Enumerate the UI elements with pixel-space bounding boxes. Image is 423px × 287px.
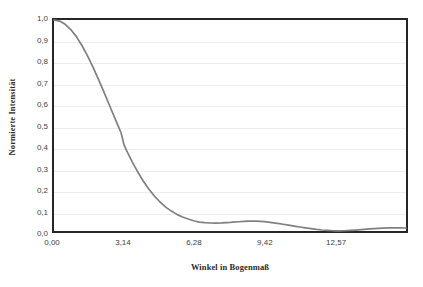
y-axis-tick-label: 0,6 xyxy=(37,100,48,109)
y-axis-tick-label: 0,2 xyxy=(37,186,48,195)
diffraction-intensity-chart: Normierte Intensität 0,00,10,20,30,40,50… xyxy=(0,0,423,287)
y-axis-tick-label: 0,9 xyxy=(37,35,48,44)
x-axis-title: Winkel in Bogenmaß xyxy=(52,262,408,272)
y-axis-tick-label: 0,0 xyxy=(37,229,48,238)
y-axis-title: Normierte Intensität xyxy=(0,0,24,234)
x-axis-tick-labels: 0,003,146,289,4212,57 xyxy=(52,238,408,252)
x-axis-tick-label: 12,57 xyxy=(326,238,346,247)
y-axis-tick-labels: 0,00,10,20,30,40,50,60,70,80,91,0 xyxy=(24,18,50,233)
y-axis-tick-label: 0,5 xyxy=(37,121,48,130)
y-axis-tick-label: 0,1 xyxy=(37,207,48,216)
y-axis-tick-label: 1,0 xyxy=(37,14,48,23)
x-axis-tick-label: 3,14 xyxy=(115,238,131,247)
y-axis-title-text: Normierte Intensität xyxy=(7,79,17,156)
x-axis-tick-label: 9,42 xyxy=(257,238,273,247)
x-axis-tick-label: 6,28 xyxy=(186,238,202,247)
y-axis-tick-label: 0,8 xyxy=(37,57,48,66)
intensity-curve-line xyxy=(54,20,406,231)
intensity-curve-svg xyxy=(54,20,406,231)
y-axis-tick-label: 0,4 xyxy=(37,143,48,152)
y-axis-tick-label: 0,3 xyxy=(37,164,48,173)
plot-area xyxy=(52,18,408,233)
x-axis-tick-label: 0,00 xyxy=(44,238,60,247)
y-axis-tick-label: 0,7 xyxy=(37,78,48,87)
